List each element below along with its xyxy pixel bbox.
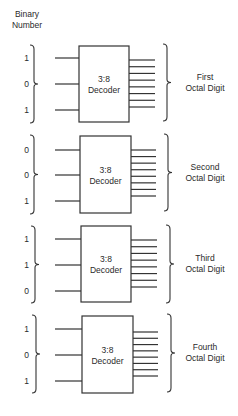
decoder-ratio-label: 3:8 [98,74,110,84]
input-brace [30,45,38,123]
input-bit: 1 [24,324,29,334]
decoder-block: 1013:8DecoderFourthOctal Digit [24,314,225,393]
decoder-box [79,46,129,122]
decoder-ratio-label: 3:8 [100,165,112,175]
octal-digit-ordinal: First [197,72,214,82]
input-brace [30,135,38,214]
input-bit: 0 [24,170,29,180]
decoder-ratio-label: 3:8 [100,254,112,264]
output-brace [163,44,171,121]
decoder-diagram: Binary Number 1013:8DecoderFirstOctal Di… [0,0,238,416]
decoder-box [81,226,131,302]
output-brace [167,314,175,392]
input-bit: 1 [24,53,29,63]
output-brace [166,225,174,303]
input-brace [31,226,39,303]
octal-digit-ordinal: Third [195,253,215,263]
input-bit: 0 [24,79,29,89]
input-bit: 1 [24,105,29,115]
input-bit: 0 [24,350,29,360]
octal-digit-ordinal: Fourth [193,342,218,352]
decoder-block: 1103:8DecoderThirdOctal Digit [24,225,225,303]
input-bit: 0 [24,145,29,155]
decoder-block: 0013:8DecoderSecondOctal Digit [24,134,225,214]
input-brace [32,315,40,393]
octal-digit-label: Octal Digit [185,173,225,183]
decoder-ratio-label: 3:8 [102,345,114,355]
octal-digit-label: Octal Digit [185,264,225,274]
decoder-box [80,136,131,213]
octal-digit-ordinal: Second [191,162,220,172]
binary-number-heading: Binary Number [12,9,42,30]
input-bit: 0 [24,286,29,296]
input-bit: 1 [24,196,29,206]
decoder-box [82,316,133,393]
decoder-block: 1013:8DecoderFirstOctal Digit [24,44,225,123]
octal-digit-label: Octal Digit [185,353,225,363]
input-bit: 1 [24,234,29,244]
decoder-name-label: Decoder [88,85,120,95]
decoder-name-label: Decoder [90,265,122,275]
output-brace [164,134,172,211]
input-bit: 1 [24,376,29,386]
input-bit: 1 [24,260,29,270]
decoder-name-label: Decoder [89,176,121,186]
octal-digit-label: Octal Digit [185,83,225,93]
heading-line-2: Number [12,20,42,30]
decoder-name-label: Decoder [91,356,123,366]
heading-line-1: Binary [15,9,40,19]
